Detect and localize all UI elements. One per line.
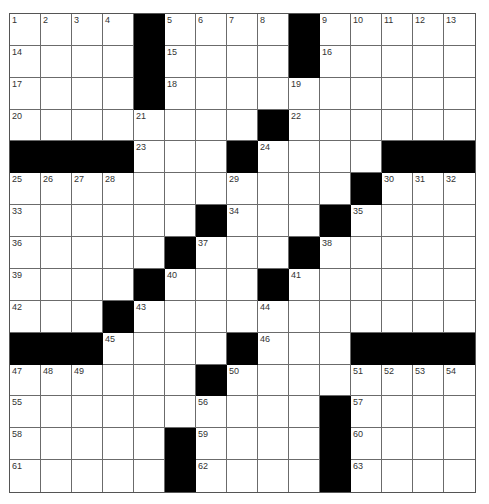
grid-cell[interactable] [351,141,382,173]
grid-cell[interactable] [382,269,413,301]
grid-cell[interactable] [72,110,103,142]
grid-cell[interactable] [289,460,320,492]
grid-cell[interactable] [413,428,444,460]
grid-cell[interactable] [196,173,227,205]
grid-cell[interactable] [165,301,196,333]
grid-cell[interactable]: 23 [134,141,165,173]
grid-cell[interactable]: 19 [289,78,320,110]
grid-cell[interactable] [320,365,351,397]
grid-cell[interactable] [227,396,258,428]
grid-cell[interactable] [196,78,227,110]
grid-cell[interactable] [258,237,289,269]
grid-cell[interactable]: 33 [10,205,41,237]
grid-cell[interactable] [227,301,258,333]
grid-cell[interactable] [41,237,72,269]
grid-cell[interactable] [103,237,134,269]
grid-cell[interactable]: 43 [134,301,165,333]
grid-cell[interactable] [134,396,165,428]
grid-cell[interactable]: 3 [72,14,103,46]
grid-cell[interactable] [351,269,382,301]
grid-cell[interactable] [413,396,444,428]
grid-cell[interactable]: 36 [10,237,41,269]
grid-cell[interactable]: 39 [10,269,41,301]
grid-cell[interactable] [382,78,413,110]
grid-cell[interactable] [41,301,72,333]
grid-cell[interactable] [134,365,165,397]
grid-cell[interactable]: 60 [351,428,382,460]
grid-cell[interactable] [351,237,382,269]
grid-cell[interactable]: 62 [196,460,227,492]
grid-cell[interactable] [289,141,320,173]
grid-cell[interactable]: 44 [258,301,289,333]
grid-cell[interactable] [444,46,475,78]
grid-cell[interactable] [72,269,103,301]
grid-cell[interactable]: 26 [41,173,72,205]
grid-cell[interactable]: 49 [72,365,103,397]
grid-cell[interactable] [41,428,72,460]
grid-cell[interactable] [351,110,382,142]
grid-cell[interactable] [320,269,351,301]
grid-cell[interactable] [41,78,72,110]
grid-cell[interactable] [134,460,165,492]
grid-cell[interactable] [258,205,289,237]
grid-cell[interactable]: 10 [351,14,382,46]
grid-cell[interactable] [103,205,134,237]
grid-cell[interactable] [413,301,444,333]
grid-cell[interactable]: 11 [382,14,413,46]
grid-cell[interactable] [444,269,475,301]
grid-cell[interactable] [320,78,351,110]
grid-cell[interactable] [72,237,103,269]
grid-cell[interactable] [258,173,289,205]
grid-cell[interactable]: 2 [41,14,72,46]
grid-cell[interactable]: 40 [165,269,196,301]
grid-cell[interactable] [165,173,196,205]
grid-cell[interactable] [413,110,444,142]
grid-cell[interactable]: 18 [165,78,196,110]
grid-cell[interactable] [413,460,444,492]
grid-cell[interactable] [103,269,134,301]
grid-cell[interactable]: 35 [351,205,382,237]
grid-cell[interactable]: 8 [258,14,289,46]
grid-cell[interactable]: 6 [196,14,227,46]
grid-cell[interactable] [41,460,72,492]
grid-cell[interactable]: 55 [10,396,41,428]
grid-cell[interactable] [227,269,258,301]
grid-cell[interactable]: 7 [227,14,258,46]
grid-cell[interactable] [72,205,103,237]
grid-cell[interactable]: 51 [351,365,382,397]
grid-cell[interactable] [382,460,413,492]
grid-cell[interactable]: 34 [227,205,258,237]
grid-cell[interactable] [103,365,134,397]
grid-cell[interactable] [227,110,258,142]
grid-cell[interactable]: 21 [134,110,165,142]
grid-cell[interactable]: 17 [10,78,41,110]
grid-cell[interactable] [289,173,320,205]
grid-cell[interactable]: 20 [10,110,41,142]
grid-cell[interactable] [72,428,103,460]
grid-cell[interactable]: 59 [196,428,227,460]
grid-cell[interactable] [320,141,351,173]
grid-cell[interactable]: 30 [382,173,413,205]
grid-cell[interactable]: 12 [413,14,444,46]
grid-cell[interactable] [413,46,444,78]
grid-cell[interactable] [320,333,351,365]
grid-cell[interactable] [413,78,444,110]
grid-cell[interactable]: 56 [196,396,227,428]
grid-cell[interactable] [103,78,134,110]
grid-cell[interactable] [196,269,227,301]
grid-cell[interactable] [382,301,413,333]
grid-cell[interactable] [227,78,258,110]
grid-cell[interactable]: 54 [444,365,475,397]
grid-cell[interactable]: 46 [258,333,289,365]
grid-cell[interactable] [289,301,320,333]
grid-cell[interactable] [444,460,475,492]
grid-cell[interactable]: 38 [320,237,351,269]
grid-cell[interactable] [289,205,320,237]
grid-cell[interactable] [103,110,134,142]
grid-cell[interactable]: 16 [320,46,351,78]
grid-cell[interactable] [103,460,134,492]
grid-cell[interactable] [72,78,103,110]
grid-cell[interactable] [444,428,475,460]
grid-cell[interactable] [134,428,165,460]
grid-cell[interactable]: 25 [10,173,41,205]
